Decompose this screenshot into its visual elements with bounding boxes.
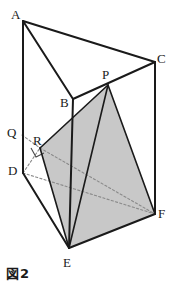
vertex-label-E: E xyxy=(63,256,71,269)
vertex-label-R: R xyxy=(33,134,42,147)
prism-diagram xyxy=(0,0,178,293)
figure-caption: 図2 xyxy=(6,263,30,282)
edge-B-C xyxy=(73,62,155,99)
vertex-label-D: D xyxy=(8,164,17,177)
vertex-label-A: A xyxy=(11,8,20,21)
figure-container: A B C D E F P Q R 図2 xyxy=(0,0,178,293)
vertex-label-Q: Q xyxy=(7,126,16,139)
edge-A-C xyxy=(23,21,155,62)
vertex-label-F: F xyxy=(158,207,165,220)
edge-A-B xyxy=(23,21,73,99)
vertex-label-C: C xyxy=(157,52,166,65)
edge-D-R xyxy=(23,148,40,173)
vertex-label-P: P xyxy=(102,68,109,81)
vertex-label-B: B xyxy=(60,96,69,109)
